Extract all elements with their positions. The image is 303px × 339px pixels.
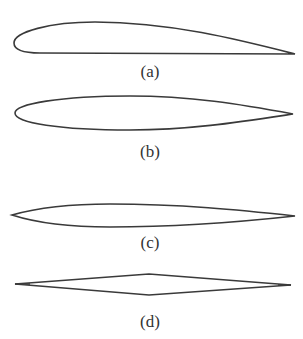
panel-label-a: (a): [120, 62, 180, 82]
airfoil-d: [15, 274, 291, 295]
airfoil-b: [15, 96, 293, 130]
airfoil-a: [14, 22, 295, 54]
panel-label-d: (d): [120, 312, 180, 332]
panel-label-b: (b): [120, 142, 180, 162]
airfoil-figure: [0, 0, 303, 339]
panel-label-c: (c): [120, 233, 180, 253]
airfoil-c: [12, 204, 295, 227]
